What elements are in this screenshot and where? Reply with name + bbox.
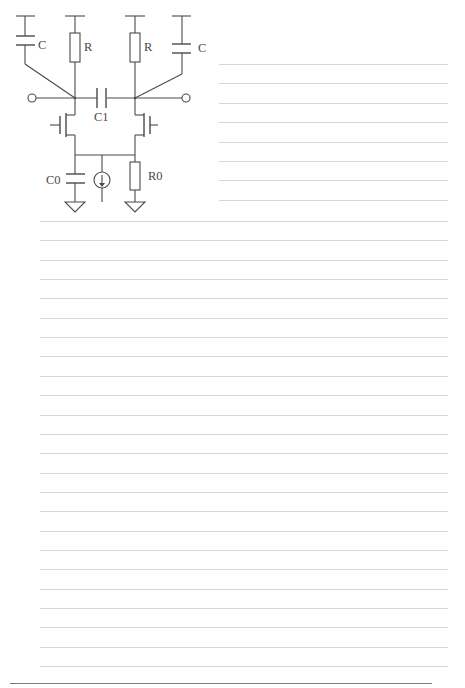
ruled-line xyxy=(40,337,448,338)
label-r-left: R xyxy=(84,40,93,54)
ruled-line-short xyxy=(219,122,448,123)
resistor-r0: R0 xyxy=(130,162,163,202)
resistor-r-left: R xyxy=(65,16,93,98)
label-r0: R0 xyxy=(148,169,163,183)
transistor-right xyxy=(135,98,158,162)
label-c1: C1 xyxy=(94,110,109,124)
ruled-line xyxy=(40,434,448,435)
ruled-line-short xyxy=(219,161,448,162)
label-c-left: C xyxy=(38,38,46,52)
ruled-line-short xyxy=(219,83,448,84)
capacitor-c1: C1 xyxy=(94,88,109,124)
ruled-line-short xyxy=(219,142,448,143)
terminal-right-icon xyxy=(182,94,190,102)
terminal-left-icon xyxy=(28,94,36,102)
transistor-left xyxy=(50,98,75,174)
ruled-line xyxy=(40,647,448,648)
ruled-line xyxy=(40,511,448,512)
ruled-line-short xyxy=(219,103,448,104)
ruled-line xyxy=(40,453,448,454)
capacitor-c-right: C xyxy=(135,16,206,98)
ground-left-icon xyxy=(65,202,85,212)
current-source xyxy=(94,155,110,202)
ruled-line xyxy=(40,531,448,532)
circuit-diagram: C R R C xyxy=(0,0,220,220)
ruled-line xyxy=(40,395,448,396)
ruled-line-short xyxy=(219,200,448,201)
notebook-page: C R R C xyxy=(0,0,465,688)
ruled-line xyxy=(40,279,448,280)
ruled-line xyxy=(40,608,448,609)
ground-right-icon xyxy=(125,202,145,212)
ruled-line xyxy=(40,221,448,222)
ruled-line xyxy=(40,550,448,551)
label-r-right: R xyxy=(144,40,153,54)
capacitor-c0: C0 xyxy=(46,173,85,202)
output-nodes xyxy=(28,94,190,102)
ruled-line xyxy=(40,260,448,261)
ruled-line xyxy=(40,318,448,319)
ruled-line xyxy=(40,492,448,493)
ruled-line xyxy=(40,240,448,241)
ruled-line xyxy=(40,627,448,628)
resistor-r-right: R xyxy=(125,16,153,98)
ruled-line xyxy=(40,376,448,377)
ruled-line xyxy=(40,298,448,299)
ruled-line xyxy=(40,473,448,474)
ruled-line xyxy=(40,356,448,357)
ruled-line xyxy=(40,589,448,590)
ruled-line-short xyxy=(219,64,448,65)
ruled-line xyxy=(40,415,448,416)
capacitor-c-left: C xyxy=(16,16,75,98)
ruled-line xyxy=(40,569,448,570)
label-c-right: C xyxy=(198,41,206,55)
ruled-line-short xyxy=(219,180,448,181)
ruled-line xyxy=(40,666,448,667)
bottom-rule xyxy=(10,683,432,684)
label-c0: C0 xyxy=(46,173,61,187)
